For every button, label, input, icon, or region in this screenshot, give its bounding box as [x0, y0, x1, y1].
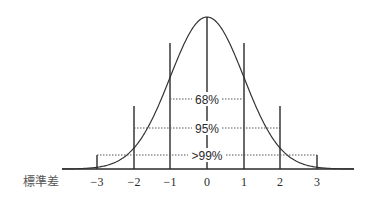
tick-0: 0 — [204, 175, 210, 189]
normal-distribution-diagram: 68% 95% >99% 標準差 −3 −2 −1 0 1 2 3 — [0, 0, 374, 198]
tick-minus1: −1 — [164, 175, 177, 189]
tick-minus2: −2 — [128, 175, 141, 189]
tick-minus3: −3 — [91, 175, 104, 189]
tick-2: 2 — [277, 175, 283, 189]
band-label-95: 95% — [195, 122, 219, 136]
band-label-99: >99% — [191, 149, 222, 163]
band-label-68: 68% — [195, 93, 219, 107]
tick-3: 3 — [314, 175, 320, 189]
axis-label: 標準差 — [23, 174, 59, 189]
tick-1: 1 — [241, 175, 247, 189]
